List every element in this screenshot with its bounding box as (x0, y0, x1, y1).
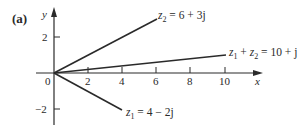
x-tick-10: 10 (219, 75, 231, 87)
sum-plus: + (237, 46, 249, 58)
svg-text:z1 = 4 − 2j: z1 = 4 − 2j (125, 106, 174, 121)
origin-label: 0 (45, 75, 51, 87)
x-axis-label: x (254, 75, 260, 87)
svg-text:z1 + z2 = 10 + j: z1 + z2 = 10 + j (228, 46, 297, 61)
z1-value: = 4 − 2j (134, 106, 173, 119)
z2-value: = 6 + 3j (166, 9, 205, 22)
vector-z2: z2 = 6 + 3j (54, 9, 206, 73)
x-tick-4: 4 (119, 75, 125, 87)
x-tick-2: 2 (85, 75, 91, 87)
x-tick-8: 8 (187, 75, 193, 87)
y-axis-arrow-icon (51, 7, 57, 17)
y-axis: y 2 −2 (35, 7, 60, 125)
y-tick-2: 2 (42, 31, 48, 43)
panel-label: (a) (12, 11, 27, 26)
sum-value: = 10 + j (258, 46, 297, 59)
complex-plane-diagram: (a) y 2 −2 x 0 2 4 6 8 10 z2 = 6 + 3j (0, 0, 303, 131)
x-axis: x 0 2 4 6 8 10 (36, 67, 263, 87)
vector-z1-plus-z2: z1 + z2 = 10 + j (54, 46, 297, 73)
y-axis-label: y (41, 8, 47, 20)
y-tick-neg2: −2 (35, 103, 47, 115)
x-tick-6: 6 (153, 75, 159, 87)
svg-text:z2 = 6 + 3j: z2 = 6 + 3j (157, 9, 206, 24)
